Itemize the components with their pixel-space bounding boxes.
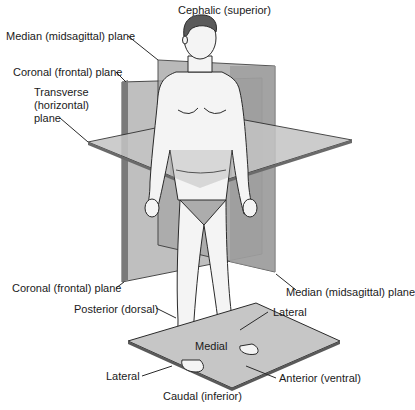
label-caudal: Caudal (inferior) — [163, 390, 242, 403]
label-median-plane-bottom: Median (midsagittal) plane — [286, 286, 415, 299]
label-lateral-right: Lateral — [273, 306, 307, 319]
label-medial: Medial — [195, 340, 227, 353]
label-median-plane-top: Median (midsagittal) plane — [6, 30, 135, 43]
label-posterior: Posterior (dorsal) — [74, 303, 158, 316]
label-transverse-line1: Transverse — [34, 86, 89, 99]
label-lateral-left: Lateral — [106, 370, 140, 383]
label-cephalic: Cephalic (superior) — [178, 4, 271, 17]
label-transverse-line3: plane — [34, 112, 61, 125]
label-coronal-plane-top: Coronal (frontal) plane — [13, 66, 122, 79]
label-transverse-line2: (horizontal) — [34, 99, 89, 112]
label-coronal-plane-bottom: Coronal (frontal) plane — [12, 282, 121, 295]
label-anterior: Anterior (ventral) — [279, 372, 361, 385]
